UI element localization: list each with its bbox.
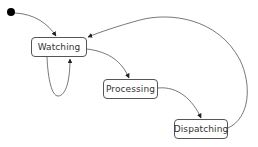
edge-watching-self-loop <box>47 57 70 96</box>
state-diagram: Watching Processing Dispatching <box>0 0 258 147</box>
state-processing-label: Processing <box>106 84 155 94</box>
state-watching-label: Watching <box>38 42 81 52</box>
edge-dispatching-to-watching <box>88 17 247 128</box>
state-processing: Processing <box>103 79 158 99</box>
state-dispatching-label: Dispatching <box>174 124 229 134</box>
edge-processing-to-dispatching <box>158 88 201 118</box>
edge-initial-to-watching <box>15 13 56 36</box>
edge-watching-to-processing <box>87 49 129 78</box>
initial-state-dot <box>7 8 15 16</box>
state-watching: Watching <box>31 37 87 57</box>
state-dispatching: Dispatching <box>174 119 228 139</box>
